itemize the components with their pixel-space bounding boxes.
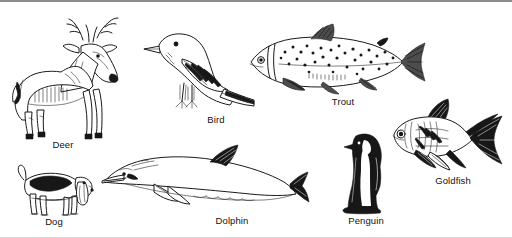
caption-dolphin: Dolphin bbox=[208, 215, 256, 226]
caption-penguin: Penguin bbox=[343, 215, 389, 226]
bird-illustration bbox=[130, 27, 255, 117]
caption-deer: Deer bbox=[43, 139, 83, 150]
goldfish-illustration bbox=[386, 98, 508, 176]
figure-dog[interactable] bbox=[14, 160, 94, 218]
dog-illustration bbox=[14, 160, 94, 218]
penguin-illustration bbox=[330, 130, 402, 216]
figure-dolphin[interactable] bbox=[98, 144, 310, 218]
figure-deer[interactable] bbox=[5, 12, 130, 142]
figure-penguin[interactable] bbox=[330, 130, 402, 216]
caption-goldfish: Goldfish bbox=[428, 175, 478, 186]
illustration-sheet: Deer bbox=[0, 0, 512, 238]
caption-trout: Trout bbox=[322, 96, 364, 107]
figure-trout[interactable] bbox=[245, 22, 427, 100]
caption-bird: Bird bbox=[196, 114, 236, 125]
trout-illustration bbox=[245, 22, 427, 100]
dolphin-illustration bbox=[98, 144, 310, 218]
deer-illustration bbox=[5, 12, 130, 142]
figure-bird[interactable] bbox=[130, 27, 255, 117]
figure-goldfish[interactable] bbox=[386, 98, 508, 176]
caption-dog: Dog bbox=[36, 216, 72, 227]
